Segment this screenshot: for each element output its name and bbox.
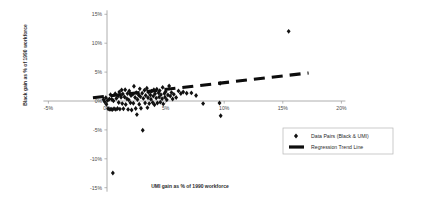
y-tick-label: -15% (90, 185, 102, 191)
legend-label: Data Pairs (Black & UMI) (311, 133, 369, 139)
chart-legend: Data Pairs (Black & UMI)Regression Trend… (283, 128, 393, 154)
data-point (161, 85, 165, 90)
y-tick-label: 5% (95, 69, 103, 75)
data-point (134, 106, 138, 111)
legend-label: Regression Trend Line (311, 144, 363, 150)
data-point (130, 108, 134, 113)
data-point (137, 102, 141, 107)
y-tick-label: 10% (92, 40, 103, 46)
data-point (147, 101, 151, 106)
data-point (189, 90, 193, 95)
data-point (123, 87, 127, 92)
x-axis-ticks: -5%0%5%10%15%20% (44, 101, 347, 111)
data-point (287, 29, 291, 34)
axis-lines (43, 10, 345, 191)
x-tick-label: -5% (44, 105, 54, 111)
data-point (139, 106, 143, 111)
chart-canvas: -5%0%5%10%15%20% -15%-10%-5%0%5%10%15% U… (0, 0, 424, 211)
data-point (124, 102, 128, 107)
y-axis-title: Black gain as % of 1990 workforce (22, 24, 28, 106)
y-tick-label: 15% (92, 11, 103, 17)
scatter-chart: -5%0%5%10%15%20% -15%-10%-5%0%5%10%15% U… (0, 0, 424, 211)
data-point (138, 86, 142, 91)
data-point (120, 101, 124, 106)
data-point (126, 107, 130, 112)
data-point (121, 106, 125, 111)
data-point (132, 84, 136, 89)
data-point (185, 91, 189, 96)
trend-line-path (93, 73, 309, 98)
x-tick-label: 15% (278, 105, 289, 111)
y-tick-label: -10% (90, 156, 102, 162)
data-point (219, 113, 223, 118)
y-tick-label: -5% (93, 127, 103, 133)
regression-trend-line (93, 73, 309, 98)
data-point (141, 128, 145, 133)
x-tick-label: 10% (219, 105, 230, 111)
data-point (194, 93, 198, 98)
x-axis-title: UMI gain as % of 1990 workforce (151, 183, 229, 189)
data-point (145, 105, 149, 110)
data-point (111, 171, 115, 176)
data-point (135, 112, 139, 117)
data-point-group (102, 29, 291, 176)
legend-box (283, 128, 393, 154)
data-point (174, 95, 178, 100)
data-point (201, 101, 205, 106)
x-tick-label: 20% (336, 105, 347, 111)
data-point (131, 101, 135, 106)
